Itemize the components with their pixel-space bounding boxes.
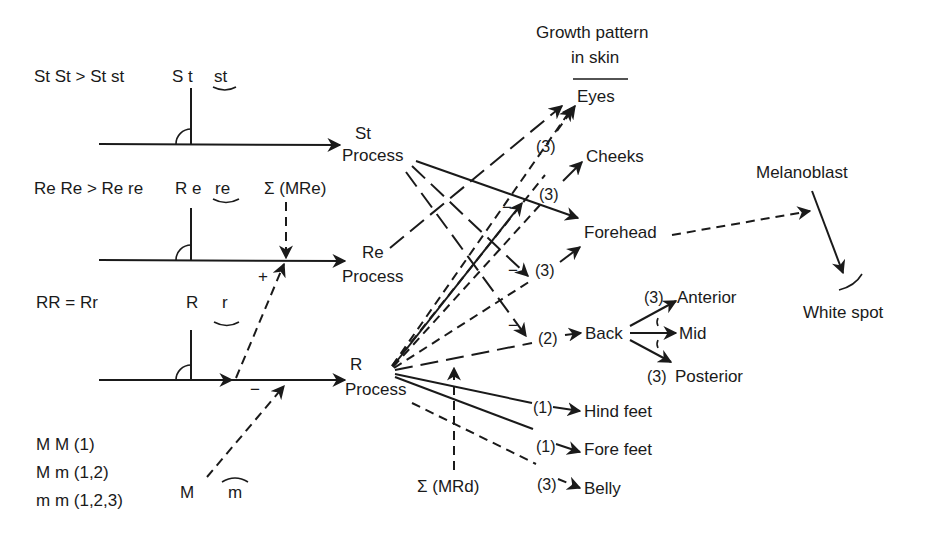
target-white-spot: White spot (803, 303, 884, 322)
level-to-eyes-arrow (557, 106, 575, 131)
forehead-to-melanoblast-arrow (672, 211, 810, 235)
target-mid: Mid (679, 324, 706, 343)
r-to-cheeks-line (393, 205, 540, 367)
level-posterior: (3) (647, 368, 667, 385)
tick-mark-upper (657, 318, 658, 326)
level-to-back-arrow (565, 333, 581, 335)
target-hind-feet: Hind feet (584, 402, 652, 421)
process-r-line1: R (350, 355, 362, 374)
level-to-hind-feet-arrow (553, 407, 580, 411)
minus-sign-cheeks: − (502, 198, 512, 217)
level-to-belly-arrow (558, 479, 580, 488)
allele-st-dominant: S t (172, 67, 193, 86)
allele-m-recessive: m (228, 483, 242, 502)
process-re-line2: Process (342, 267, 403, 286)
level-back: (2) (538, 330, 558, 347)
melanoblast-to-white-spot-arrow (812, 191, 843, 273)
locus-angle-r (176, 365, 191, 380)
process-st-line2: Process (342, 146, 403, 165)
level-anterior: (3) (644, 289, 664, 306)
target-back: Back (585, 324, 623, 343)
header-in-skin: in skin (571, 48, 619, 67)
target-belly: Belly (584, 479, 621, 498)
allele-re-recessive: re (215, 179, 230, 198)
recessive-arc-st (213, 87, 236, 90)
level-cheeks: (3) (539, 186, 559, 203)
allele-m-dominant: M (180, 483, 194, 502)
white-spot-arc (839, 274, 862, 290)
minus-sign-m: − (250, 380, 260, 399)
level-hind-feet: (1) (533, 399, 553, 416)
target-cheeks: Cheeks (586, 147, 644, 166)
gene-interaction-diagram: St St > St st Re Re > Re re RR = Rr M M … (0, 0, 930, 535)
level-eyes: (3) (536, 138, 556, 155)
target-posterior: Posterior (675, 367, 743, 386)
level-forehead: (3) (535, 262, 555, 279)
r-to-back-line (395, 343, 532, 370)
recessive-arc-re (213, 199, 239, 203)
minus-sign-back: − (508, 316, 518, 335)
genotype-mm: M M (1) (36, 435, 95, 454)
back-to-posterior-arrow (630, 340, 671, 362)
pathway-arrow-st (99, 144, 340, 145)
process-st-line1: St (355, 124, 371, 143)
level-to-fore-feet-arrow (556, 444, 580, 452)
target-melanoblast: Melanoblast (756, 163, 848, 182)
genotype-mm-rec: m m (1,2,3) (36, 491, 123, 510)
st-to-back-arrow (406, 172, 526, 336)
process-re-line1: Re (362, 243, 384, 262)
locus-angle-re (176, 245, 191, 260)
genotype-r: RR = Rr (36, 293, 98, 312)
modifier-mrd: Σ (MRd) (417, 477, 479, 496)
allele-r-recessive: r (222, 293, 228, 312)
allele-re-dominant: R e (175, 179, 201, 198)
m-to-r-negative-arrow (207, 386, 284, 477)
genotype-mm-het: M m (1,2) (36, 463, 109, 482)
locus-angle-st (176, 129, 191, 144)
plus-sign: + (258, 267, 268, 286)
r-to-cheeks-level-arrow (393, 203, 522, 366)
allele-r-dominant: R (186, 293, 198, 312)
level-fore-feet: (1) (536, 438, 556, 455)
recessive-arc-r (214, 322, 239, 326)
minus-sign-forehead: − (508, 261, 518, 280)
r-to-hind-feet-line (395, 374, 532, 403)
genotype-st: St St > St st (34, 67, 125, 86)
allele-st-recessive: st (214, 67, 228, 86)
process-r-line2: Process (345, 380, 406, 399)
recessive-arc-m (222, 478, 248, 482)
genotype-re: Re Re > Re re (34, 179, 143, 198)
modifier-mre: Σ (MRe) (264, 179, 326, 198)
r-to-fore-feet-line (395, 377, 533, 429)
target-fore-feet: Fore feet (584, 440, 652, 459)
target-forehead: Forehead (584, 223, 657, 242)
r-to-belly-line (412, 403, 536, 464)
level-belly: (3) (537, 476, 557, 493)
level-to-forehead-arrow (560, 247, 580, 262)
target-eyes: Eyes (577, 87, 615, 106)
pathway-arrow-re (99, 260, 345, 261)
level-to-cheeks-arrow (563, 162, 582, 181)
tick-mark-lower (657, 340, 658, 348)
header-growth-pattern: Growth pattern (536, 23, 648, 42)
target-anterior: Anterior (677, 288, 737, 307)
